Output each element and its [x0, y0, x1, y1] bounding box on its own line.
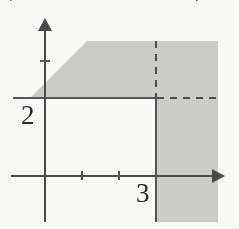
y-axis — [44, 27, 46, 222]
x-axis — [11, 175, 216, 177]
x-axis-arrow-icon — [212, 169, 225, 183]
y-intercept-label: 2 — [21, 102, 35, 129]
x-axis-tick-1 — [81, 171, 83, 180]
clipped-text-fragment-left: y — [10, 0, 36, 13]
boundary-line-y-equals-2-solid — [13, 97, 156, 99]
boundary-line-x-equals-3-dashed — [155, 41, 157, 98]
x-axis-tick-2 — [118, 171, 120, 180]
clipped-text-fragment-right: y — [196, 0, 222, 13]
boundary-line-x-equals-3-solid — [155, 97, 157, 222]
shaded-region-right — [155, 98, 218, 222]
boundary-line-y-equals-2-dashed — [157, 97, 218, 99]
y-axis-arrow-icon — [38, 18, 52, 31]
x-intercept-label: 3 — [136, 180, 150, 207]
y-axis-tick-2 — [40, 60, 50, 62]
graph-figure: 2 3 y y — [0, 0, 239, 229]
